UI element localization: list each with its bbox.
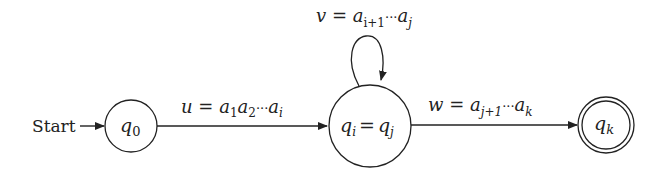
transition-v-label: v = ai+1···aj	[316, 5, 412, 30]
svg-text:qi=qj: qi=qj	[340, 114, 394, 139]
transition-w-label: w = aj+1···ak	[428, 94, 533, 119]
transition-u-label: u = a1a2···ai	[181, 96, 283, 120]
state-qk-accepting: qk	[578, 97, 634, 153]
start-label: Start	[32, 116, 76, 136]
state-qi-qj: qi=qj	[329, 85, 411, 167]
automaton-diagram: Start q0 u = a1a2···ai qi=qj v = ai+1···…	[0, 0, 664, 174]
state-q0: q0	[105, 100, 157, 152]
transition-v-loop	[351, 36, 383, 86]
svg-text:q0: q0	[120, 114, 140, 139]
svg-text:qk: qk	[594, 112, 614, 137]
